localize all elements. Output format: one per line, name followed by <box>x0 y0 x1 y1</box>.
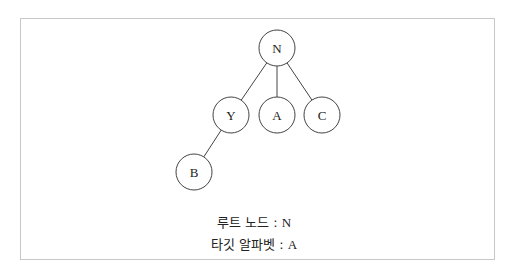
tree-nodes: NYACB <box>176 30 340 190</box>
target-alphabet-value: A <box>288 237 297 252</box>
tree-node-N: N <box>259 30 295 66</box>
tree-node-A: A <box>259 97 295 133</box>
edge-Y-B <box>204 130 221 157</box>
node-label: C <box>318 108 327 123</box>
root-node-label: 루트 노드 : <box>217 215 282 230</box>
target-alphabet-caption: 타깃 알파벳 : A <box>0 234 508 253</box>
tree-node-B: B <box>176 154 212 190</box>
node-label: Y <box>226 108 236 123</box>
node-label: A <box>272 108 282 123</box>
tree-node-C: C <box>304 97 340 133</box>
node-label: N <box>272 41 282 56</box>
tree-node-Y: Y <box>213 97 249 133</box>
root-node-value: N <box>282 215 291 230</box>
edge-N-Y <box>241 63 267 100</box>
node-label: B <box>190 165 199 180</box>
target-alphabet-label: 타깃 알파벳 : <box>211 237 288 252</box>
edge-N-C <box>287 63 312 100</box>
root-node-caption: 루트 노드 : N <box>0 212 508 231</box>
